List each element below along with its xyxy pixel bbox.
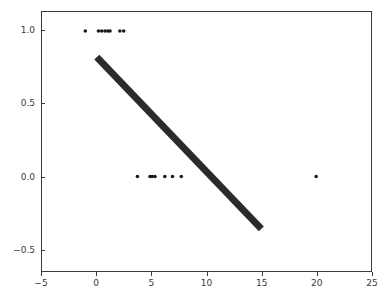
data-point — [97, 29, 101, 33]
scatter-points — [84, 29, 318, 178]
data-point — [314, 175, 318, 179]
y-tick-label: 0.5 — [21, 99, 35, 108]
y-tick-mark — [41, 250, 45, 251]
x-tick-mark — [262, 272, 263, 276]
data-point — [100, 29, 104, 33]
x-tick-label: 15 — [256, 279, 267, 288]
y-tick-mark — [41, 177, 45, 178]
data-point — [84, 29, 88, 33]
x-tick-label: 0 — [93, 279, 99, 288]
x-tick-mark — [151, 272, 152, 276]
figure-canvas: −50510152025 −0.50.00.51.0 — [0, 0, 387, 300]
plot-area — [41, 11, 372, 272]
fitted-line-segment — [97, 57, 262, 229]
x-tick-label: 5 — [148, 279, 154, 288]
data-point — [136, 175, 140, 179]
data-point — [118, 29, 122, 33]
y-tick-label: 1.0 — [21, 26, 35, 35]
data-point — [122, 29, 126, 33]
y-tick-mark — [41, 103, 45, 104]
y-tick-label: 0.0 — [21, 172, 35, 181]
data-point — [108, 29, 112, 33]
data-point — [163, 175, 167, 179]
data-layer — [42, 12, 371, 271]
data-point — [179, 175, 183, 179]
x-tick-label: 25 — [366, 279, 377, 288]
y-tick-label: −0.5 — [13, 246, 35, 255]
x-tick-label: 10 — [201, 279, 212, 288]
x-tick-mark — [372, 272, 373, 276]
x-tick-label: 20 — [311, 279, 322, 288]
x-tick-label: −5 — [34, 279, 47, 288]
x-tick-mark — [96, 272, 97, 276]
data-point — [153, 175, 157, 179]
data-point — [171, 175, 175, 179]
x-tick-mark — [207, 272, 208, 276]
x-tick-mark — [317, 272, 318, 276]
y-tick-mark — [41, 30, 45, 31]
x-tick-mark — [41, 272, 42, 276]
fitted-line — [97, 57, 262, 229]
